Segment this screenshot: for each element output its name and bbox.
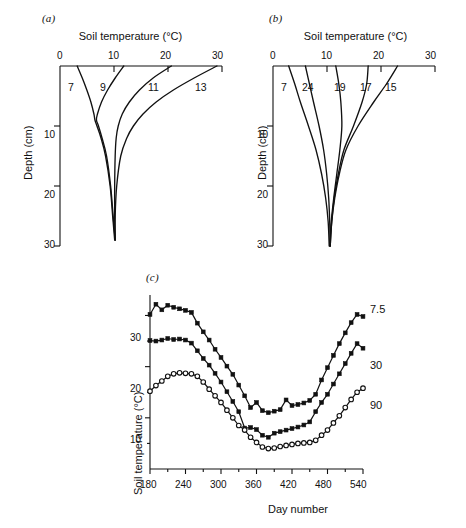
panel-b-curves	[289, 66, 398, 246]
marker-filled	[349, 351, 353, 355]
marker-filled	[290, 427, 294, 431]
marker-filled	[278, 430, 282, 434]
marker-open	[213, 394, 218, 399]
marker-filled	[195, 349, 199, 353]
marker-filled	[207, 363, 211, 367]
marker-filled	[160, 308, 164, 312]
marker-filled	[255, 401, 259, 405]
marker-filled	[231, 372, 235, 376]
marker-open	[266, 446, 271, 451]
curve-17	[330, 66, 368, 246]
marker-filled	[172, 305, 176, 309]
marker-filled	[148, 339, 152, 343]
marker-filled	[302, 423, 306, 427]
marker-open	[201, 380, 206, 385]
marker-filled	[207, 338, 211, 342]
marker-open	[248, 435, 253, 440]
marker-filled	[278, 408, 282, 412]
marker-filled	[266, 411, 270, 415]
marker-filled	[148, 313, 152, 317]
marker-open	[160, 379, 165, 384]
marker-filled	[308, 420, 312, 424]
marker-filled	[349, 321, 353, 325]
marker-filled	[343, 362, 347, 366]
marker-open	[195, 374, 200, 379]
marker-filled	[261, 409, 265, 413]
marker-filled	[296, 425, 300, 429]
marker-open	[183, 371, 188, 376]
marker-filled	[332, 382, 336, 386]
marker-filled	[184, 308, 188, 312]
marker-filled	[225, 364, 229, 368]
panel-a-plot	[0, 0, 233, 265]
marker-filled	[172, 338, 176, 342]
marker-open	[242, 428, 247, 433]
marker-filled	[355, 313, 359, 317]
marker-filled	[231, 400, 235, 404]
curve-7	[289, 66, 330, 246]
marker-filled	[266, 435, 270, 439]
figure-soil-temperature: (a) Soil temperature (°C) Depth (cm) 0 1…	[0, 0, 466, 528]
marker-open	[236, 423, 241, 428]
series-line-7.5	[150, 304, 363, 413]
marker-open	[154, 383, 159, 388]
marker-open	[165, 374, 170, 379]
curve-13	[115, 66, 217, 240]
marker-filled	[190, 311, 194, 315]
marker-open	[177, 370, 182, 375]
series-7.5	[148, 302, 365, 414]
marker-filled	[160, 338, 164, 342]
marker-filled	[308, 399, 312, 403]
marker-filled	[326, 366, 330, 370]
marker-filled	[326, 392, 330, 396]
panel-c: (c) Soil temperature (°C) Day number 180…	[118, 265, 466, 528]
marker-filled	[302, 401, 306, 405]
marker-open	[219, 400, 224, 405]
marker-open	[331, 421, 336, 426]
marker-filled	[272, 431, 276, 435]
marker-filled	[201, 330, 205, 334]
marker-filled	[195, 321, 199, 325]
marker-open	[325, 428, 330, 433]
marker-open	[290, 442, 295, 447]
marker-filled	[178, 307, 182, 311]
marker-filled	[361, 315, 365, 319]
marker-filled	[272, 409, 276, 413]
marker-filled	[213, 347, 217, 351]
marker-filled	[355, 342, 359, 346]
panel-b-ylabel: Depth (cm)	[256, 126, 268, 180]
marker-filled	[213, 371, 217, 375]
marker-filled	[237, 410, 241, 414]
marker-open	[278, 444, 283, 449]
marker-open	[254, 440, 259, 445]
marker-filled	[320, 401, 324, 405]
marker-open	[272, 446, 277, 451]
marker-filled	[184, 338, 188, 342]
marker-filled	[219, 356, 223, 360]
marker-open	[302, 441, 307, 446]
marker-filled	[201, 357, 205, 361]
marker-open	[284, 443, 289, 448]
marker-filled	[314, 392, 318, 396]
curve-7	[77, 66, 114, 240]
marker-filled	[166, 303, 170, 307]
marker-open	[189, 372, 194, 377]
marker-filled	[284, 398, 288, 402]
marker-filled	[337, 372, 341, 376]
marker-filled	[337, 342, 341, 346]
marker-filled	[190, 341, 194, 345]
marker-filled	[261, 433, 265, 437]
marker-filled	[154, 339, 158, 343]
marker-filled	[361, 346, 365, 350]
marker-filled	[225, 390, 229, 394]
marker-open	[361, 386, 366, 391]
marker-filled	[284, 428, 288, 432]
panel-a-curves	[77, 66, 217, 240]
marker-open	[231, 416, 236, 421]
marker-filled	[290, 404, 294, 408]
marker-open	[313, 438, 318, 443]
marker-open	[296, 441, 301, 446]
marker-filled	[343, 331, 347, 335]
marker-open	[225, 408, 230, 413]
panel-c-plot	[118, 265, 466, 528]
